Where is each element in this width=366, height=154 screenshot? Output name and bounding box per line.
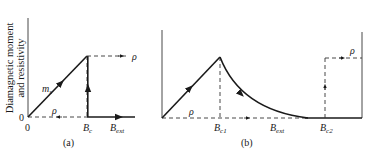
- panel-b-bc1-label: Bc1: [214, 122, 227, 135]
- panel-b-bc2-label: Bc2: [320, 122, 333, 135]
- panel-b: ρ ρ Bc1 Bext Bc2 (b): [162, 30, 362, 149]
- panel-b-caption: (b): [241, 137, 253, 149]
- panel-a-ms-label: ms: [42, 83, 52, 96]
- panel-a-bext-label: Bext: [110, 122, 125, 135]
- panel-b-rho-high-label: ρ: [349, 45, 355, 56]
- y-axis-label-line2: and resistivity: [15, 38, 26, 98]
- y-axis-label-line1: Diamagnetic moment: [4, 23, 15, 114]
- superconductor-magnetization-diagram: Diamagnetic moment and resistivity ρ ρ m…: [0, 0, 366, 154]
- panel-b-magnetization-decay: [220, 57, 308, 118]
- panel-a-magnetization-line: [28, 56, 87, 117]
- panel-b-rise-arrow: [189, 88, 190, 89]
- panel-a-x-origin-label: 0: [25, 122, 30, 133]
- panel-a-rho-low-label: ρ: [51, 105, 57, 116]
- panel-a-magnetization-arrow: [60, 83, 61, 84]
- panel-a-bc-label: Bc: [83, 122, 93, 135]
- panel-a-rho-high-label: ρ: [131, 51, 137, 62]
- y-axis-label: Diamagnetic moment and resistivity: [4, 23, 26, 114]
- panel-a-y-origin-label: 0: [19, 112, 24, 123]
- panel-a: ρ ρ ms 0 0 Bc Bext (a): [19, 18, 137, 149]
- panel-b-decay-arrow: [240, 93, 241, 94]
- panel-b-rho-low-label: ρ: [188, 106, 194, 117]
- panel-a-caption: (a): [63, 137, 74, 149]
- panel-b-bext-label: Bext: [270, 122, 285, 135]
